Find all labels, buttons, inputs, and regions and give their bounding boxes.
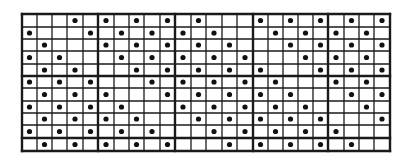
grid-dot [303,30,308,35]
grid-dot [149,55,154,60]
grid-dot [42,92,47,97]
grid-dot [227,42,232,47]
grid-dot [196,92,201,97]
grid-dot [103,116,108,121]
grid-dot [273,129,278,134]
grid-dot [72,116,77,121]
grid-dot [349,142,354,147]
grid-dot [149,30,154,35]
grid-dot [196,42,201,47]
grid-dot [119,129,124,134]
grid-dot [42,116,47,121]
grid-dot [57,129,62,134]
grid-dot [333,129,338,134]
grid-dot [379,67,384,72]
grid-dot [242,129,247,134]
grid-dot [227,92,232,97]
grid-dot [165,42,170,47]
grid-dot [103,18,108,23]
grid-dot [211,129,216,134]
grid-dot [119,55,124,60]
grid-dot [258,18,263,23]
grid-dot [318,42,323,47]
grid-dot [88,79,93,84]
grid-dot [379,116,384,121]
grid-dot [303,129,308,134]
grid-dot [134,18,139,23]
grid-dot [258,142,263,147]
grid-dot [165,92,170,97]
grid-dot [180,55,185,60]
grid-dot [227,67,232,72]
grid-dot [196,18,201,23]
dot-grid-canvas [0,0,413,163]
grid-dot [88,129,93,134]
grid-dot [364,104,369,109]
grid-dot [211,30,216,35]
grid-dot [211,104,216,109]
grid-dot [364,30,369,35]
grid-dot [149,79,154,84]
grid-dot [196,116,201,121]
grid-dot [349,92,354,97]
grid-dot [57,55,62,60]
grid-dot [42,42,47,47]
grid-dot [273,104,278,109]
grid-dot [349,42,354,47]
grid-dot [165,142,170,147]
grid-dot [42,142,47,147]
grid-dot [318,116,323,121]
grid-dot [288,92,293,97]
grid-dot [165,67,170,72]
grid-dot [27,104,32,109]
grid-dot [134,142,139,147]
grid-dot [349,67,354,72]
grid-dot [27,129,32,134]
grid-dot [27,79,32,84]
grid-dot [379,42,384,47]
grid-dot [103,92,108,97]
grid-dot [333,55,338,60]
grid-dot [242,104,247,109]
grid-dot [27,55,32,60]
grid-dot [379,92,384,97]
grid-dot [273,79,278,84]
grid-dot [349,18,354,23]
grid-dot [27,30,32,35]
grid-dot [119,104,124,109]
grid-dot [180,104,185,109]
grid-dot [318,67,323,72]
grid-dot [211,55,216,60]
grid-dot [57,104,62,109]
grid-dot [288,116,293,121]
grid-dot [318,18,323,23]
grid-dot [258,116,263,121]
grid-dot [227,116,232,121]
grid-dot [72,92,77,97]
grid-dot [149,129,154,134]
grid-dot [57,79,62,84]
grid-dot [227,142,232,147]
grid-dot [364,79,369,84]
grid-dot [180,30,185,35]
grid-dot [42,67,47,72]
grid-dot [273,30,278,35]
grid-dot [288,42,293,47]
grid-dot [88,30,93,35]
grid-dot [88,104,93,109]
grid-dot [258,92,263,97]
grid-dot [165,18,170,23]
grid-dot [134,116,139,121]
grid-dot [72,67,77,72]
grid-dot [180,79,185,84]
grid-dot [333,79,338,84]
grid-dot [258,67,263,72]
grid-dot [134,67,139,72]
grid-dot [119,30,124,35]
grid-dot [103,142,108,147]
grid-dot [379,18,384,23]
grid-dot [211,79,216,84]
grid-dot [288,142,293,147]
grid-dot [303,104,308,109]
grid-dot [364,55,369,60]
